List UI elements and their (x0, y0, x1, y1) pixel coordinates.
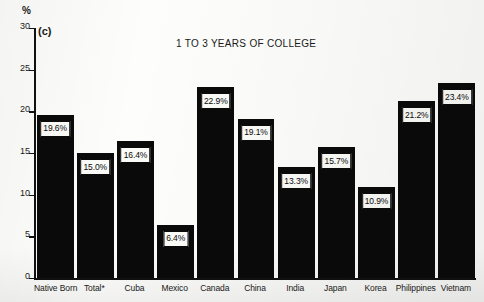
x-axis-label: Mexico (155, 283, 195, 293)
x-axis-label: Vietnam (436, 283, 476, 293)
bar-value-label: 21.2% (402, 107, 432, 123)
bar-value-label: 15.0% (80, 159, 110, 175)
y-tick-label: 15 (20, 146, 30, 156)
x-axis-category-labels: Native BornTotal*CubaMexicoCanadaChinaIn… (34, 283, 476, 299)
bar-value-label: 19.6% (40, 121, 70, 137)
bar-value-label: 22.9% (201, 93, 231, 109)
bar-cell: 10.9% (358, 28, 395, 278)
x-axis-label: Native Born (34, 283, 74, 293)
bar-cell: 21.2% (398, 28, 435, 278)
bar (238, 119, 275, 278)
bar (438, 83, 475, 278)
y-tick-label: 5 (25, 229, 30, 239)
x-axis-label: China (235, 283, 275, 293)
x-axis-label: Cuba (114, 283, 154, 293)
bar-cell: 22.9% (197, 28, 234, 278)
bar-value-label: 15.7% (322, 153, 352, 169)
bar-cell: 23.4% (438, 28, 475, 278)
y-tick-label: 30 (20, 21, 30, 31)
bar (398, 101, 435, 278)
bar-value-label: 23.4% (442, 89, 472, 105)
bar-cell: 19.6% (37, 28, 74, 278)
y-tick-label: 25 (20, 63, 30, 73)
bar (197, 87, 234, 278)
bar-cell: 15.0% (77, 28, 114, 278)
bar-series: 19.6%15.0%16.4%6.4%22.9%19.1%13.3%15.7%1… (35, 28, 476, 278)
x-axis-label: Philippines (396, 283, 436, 293)
bar-value-label: 16.4% (121, 147, 151, 163)
y-axis-unit-label: % (22, 5, 31, 16)
bar-cell: 6.4% (157, 28, 194, 278)
x-axis-label: Japan (315, 283, 355, 293)
x-axis-label: Korea (355, 283, 395, 293)
bar (37, 115, 74, 278)
bar-value-label: 19.1% (241, 125, 271, 141)
plot-area: 051015202530 19.6%15.0%16.4%6.4%22.9%19.… (34, 28, 476, 278)
bar-cell: 16.4% (117, 28, 154, 278)
bar-value-label: 6.4% (163, 231, 188, 247)
x-axis-label: Total* (74, 283, 114, 293)
bar-cell: 19.1% (238, 28, 275, 278)
bar-value-label: 10.9% (362, 193, 392, 209)
x-axis-line (34, 278, 476, 280)
y-tick-label: 0 (25, 271, 30, 281)
bar-value-label: 13.3% (281, 173, 311, 189)
x-axis-label: Canada (195, 283, 235, 293)
bar-chart-figure: % (c) 1 TO 3 YEARS OF COLLEGE 0510152025… (0, 0, 484, 302)
y-tick-label: 10 (20, 188, 30, 198)
bar-cell: 15.7% (318, 28, 355, 278)
bar-cell: 13.3% (278, 28, 315, 278)
y-tick-label: 20 (20, 104, 30, 114)
x-axis-label: India (275, 283, 315, 293)
